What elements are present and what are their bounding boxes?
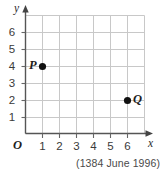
x-tick-label-3: 3	[70, 141, 83, 153]
x-axis-label: x	[148, 138, 153, 150]
point-label-q: Q	[133, 93, 142, 106]
y-tick-label-5: 5	[6, 44, 18, 56]
horizontal-gridlines	[26, 16, 145, 134]
origin-label: O	[13, 139, 22, 152]
coordinate-grid-figure: 6 5 4 3 2 1 1 2 3 4 5 6 y x O P Q (1384 …	[0, 0, 163, 174]
x-tick-label-2: 2	[53, 141, 66, 153]
x-tick-label-1: 1	[36, 141, 49, 153]
vertical-gridlines	[26, 16, 145, 134]
y-tick-label-6: 6	[6, 27, 18, 39]
x-tick-label-5: 5	[104, 141, 117, 153]
y-tick-label-2: 2	[6, 95, 18, 107]
y-tick-label-3: 3	[6, 78, 18, 90]
y-axis	[22, 5, 28, 134]
x-tick-label-6: 6	[121, 141, 134, 153]
y-tick-label-4: 4	[6, 61, 18, 73]
x-tick-label-4: 4	[87, 141, 100, 153]
source-caption: (1384 June 1996)	[0, 157, 160, 169]
x-axis	[26, 130, 154, 136]
point-label-p: P	[29, 59, 37, 72]
point-marker-p	[39, 63, 46, 70]
y-axis-label: y	[14, 3, 19, 15]
point-marker-q	[124, 97, 131, 104]
y-tick-label-1: 1	[6, 112, 18, 124]
